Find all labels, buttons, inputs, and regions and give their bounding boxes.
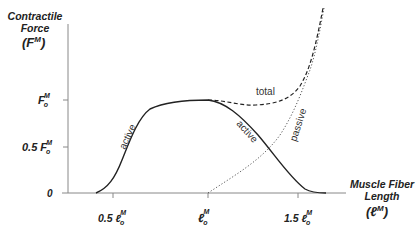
x-tick-label-lo: ℓoM [198,208,209,226]
force-length-diagram: Contractile Force (FM) FoM 0.5 FoM 0 0.5… [0,0,419,236]
passive-curve [208,8,324,193]
x-axis-title-line2: Length [365,190,400,202]
y-tick-label-half: 0.5 FoM [22,139,52,155]
y-axis-title-line2: Force [21,22,50,34]
x-tick-label-1-5: 1.5 ℓoM [284,209,312,226]
x-axis-title-line1: Muscle Fiber [350,178,415,190]
y-tick-label-fo: FoM [38,92,50,108]
passive-label: passive [287,107,308,143]
y-axis-title-line1: Contractile [8,10,63,22]
x-axis-symbol: (ℓM) [366,204,388,219]
total-label: total [256,86,275,97]
active-label-left: active [117,122,138,151]
y-tick-label-zero: 0 [47,188,53,199]
x-tick-label-half: 0.5 ℓoM [98,209,126,226]
active-label-right: active [235,118,261,145]
y-axis-symbol: (FM) [22,35,45,50]
active-curve [96,100,326,193]
